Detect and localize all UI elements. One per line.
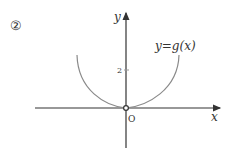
origin-label: O: [128, 114, 135, 124]
y-tick-label: 2: [117, 66, 122, 75]
curve-label: y=g(x): [154, 39, 196, 53]
figure-number: ②: [10, 18, 22, 33]
curve-g: [77, 55, 179, 108]
x-axis-label: x: [211, 110, 218, 124]
graph: ② y x O 2 y=g(x): [0, 0, 228, 153]
origin-open-circle: [124, 106, 129, 111]
y-axis-label: y: [113, 10, 121, 24]
